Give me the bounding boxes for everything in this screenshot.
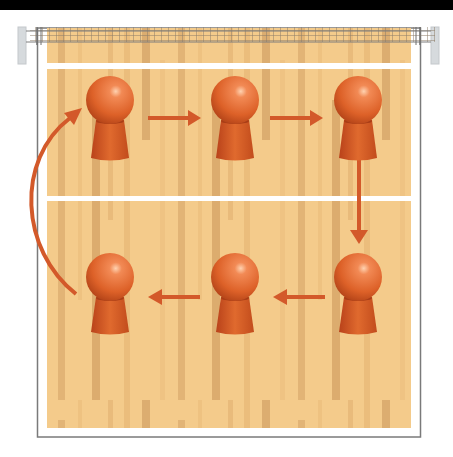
net-post-left — [18, 27, 26, 64]
rotation-diagram — [0, 0, 453, 457]
player-6 — [86, 253, 134, 335]
player-5 — [211, 253, 259, 335]
center-line — [47, 63, 411, 69]
attack-line — [47, 196, 411, 201]
player-4 — [334, 253, 382, 335]
net — [26, 27, 435, 45]
